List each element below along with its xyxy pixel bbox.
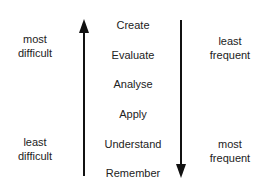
label-line: difficult bbox=[10, 149, 60, 163]
label-line: most bbox=[205, 137, 255, 151]
down-arrow-icon bbox=[176, 20, 186, 178]
most-frequent-label: most frequent bbox=[205, 137, 255, 165]
up-arrow-icon bbox=[79, 19, 89, 176]
label-line: frequent bbox=[205, 151, 255, 165]
label-line: least bbox=[205, 34, 255, 48]
level-evaluate: Evaluate bbox=[95, 48, 171, 62]
least-difficult-label: least difficult bbox=[10, 135, 60, 163]
most-difficult-label: most difficult bbox=[10, 32, 60, 60]
level-apply: Apply bbox=[95, 107, 171, 121]
level-remember: Remember bbox=[95, 166, 171, 180]
level-understand: Understand bbox=[95, 137, 171, 151]
label-line: most bbox=[10, 32, 60, 46]
least-frequent-label: least frequent bbox=[205, 34, 255, 62]
label-line: difficult bbox=[10, 46, 60, 60]
label-line: least bbox=[10, 135, 60, 149]
level-analyse: Analyse bbox=[95, 77, 171, 91]
level-create: Create bbox=[95, 18, 171, 32]
label-line: frequent bbox=[205, 48, 255, 62]
